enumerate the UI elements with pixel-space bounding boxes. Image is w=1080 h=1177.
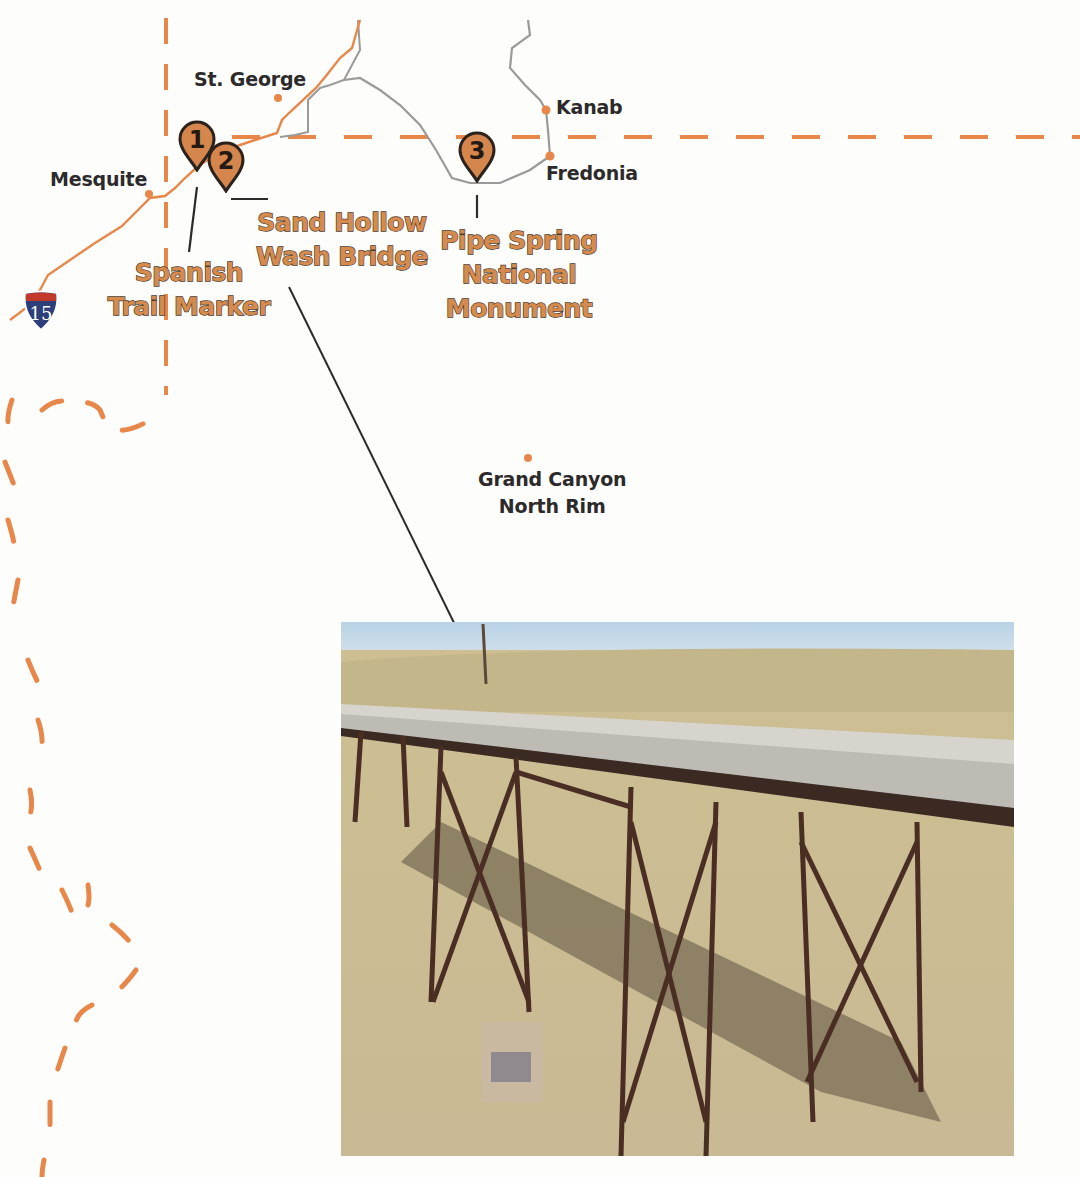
poi-label-line: Wash Bridge: [252, 240, 432, 274]
city-label-line: North Rim: [478, 493, 626, 520]
city-label-st-george: St. George: [194, 68, 306, 90]
map-marker-2[interactable]: 2: [206, 141, 246, 193]
poi-label-pipe-spring: Pipe Spring National Monument: [436, 224, 602, 326]
city-dot-grand-canyon: [524, 454, 532, 462]
city-label-mesquite: Mesquite: [50, 168, 147, 190]
city-label-grand-canyon: Grand Canyon North Rim: [478, 466, 626, 520]
interstate-number: 15: [22, 303, 60, 324]
city-dot-fredonia: [546, 152, 555, 161]
marker-number: 2: [206, 147, 246, 175]
poi-label-line: National: [436, 258, 602, 292]
poi-label-line: Monument: [436, 292, 602, 326]
poi-label-line: Spanish: [104, 256, 274, 290]
city-dot-kanab: [542, 106, 551, 115]
interstate-shield-icon: 15: [22, 290, 60, 332]
map-marker-3[interactable]: 3: [457, 131, 497, 183]
poi-label-line: Pipe Spring: [436, 224, 602, 258]
city-dot-mesquite: [145, 190, 153, 198]
city-dot-st-george: [274, 94, 282, 102]
bridge-photo: [341, 622, 1014, 1156]
road-gray-main: [344, 78, 550, 183]
marker-number: 3: [457, 137, 497, 165]
city-label-kanab: Kanab: [556, 96, 623, 118]
poi-label-line: Sand Hollow: [252, 206, 432, 240]
poi-label-sand-hollow-wash-bridge: Sand Hollow Wash Bridge: [252, 206, 432, 274]
poi-label-line: Trail Marker: [104, 290, 274, 324]
city-label-fredonia: Fredonia: [546, 162, 638, 184]
poi-label-spanish-trail-marker: Spanish Trail Marker: [104, 256, 274, 324]
leader-line-1: [189, 187, 197, 252]
city-label-line: Grand Canyon: [478, 466, 626, 493]
state-border-curved: [5, 400, 150, 1177]
